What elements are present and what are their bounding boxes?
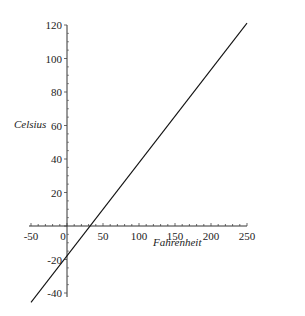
y-tick-label: 80 xyxy=(51,86,63,98)
y-tick-label: 60 xyxy=(51,120,63,132)
x-tick-label: 0 xyxy=(60,230,66,242)
y-tick-label: 20 xyxy=(51,187,63,199)
y-tick-label: 120 xyxy=(46,19,63,31)
series-line xyxy=(31,23,247,302)
tick-labels: -50050100150200250-40-2020406080100120 xyxy=(24,19,256,299)
y-tick-label: -40 xyxy=(47,287,62,299)
x-tick-label: 100 xyxy=(131,230,148,242)
y-tick-label: 40 xyxy=(51,153,63,165)
x-tick-label: -50 xyxy=(24,230,39,242)
y-tick-label: 100 xyxy=(46,53,63,65)
x-tick-label: 50 xyxy=(98,230,110,242)
series-lines xyxy=(31,23,247,302)
x-axis-title: Fahrenheit xyxy=(152,236,202,248)
y-axis-title: Celsius xyxy=(14,118,46,130)
chart: -50050100150200250-40-2020406080100120 F… xyxy=(0,0,305,316)
x-tick-label: 200 xyxy=(203,230,220,242)
x-tick-label: 250 xyxy=(239,230,256,242)
